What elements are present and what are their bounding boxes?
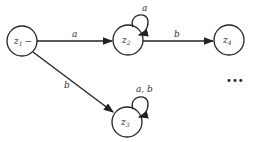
svg-text:z4: z4 [222,35,232,46]
svg-text:z3: z3 [120,117,130,128]
diagram-svg: z1− z2 z4 z3 a a b b a, b ••• [0,0,255,142]
svg-text:z1−: z1− [13,36,32,47]
label-loop-z3: a, b [136,84,153,94]
label-z1-z2: a [72,29,77,39]
ellipsis: ••• [226,75,244,86]
label-loop-z2: a [142,3,147,13]
label-z2-z4: b [174,29,180,39]
label-z1-z3: b [64,80,70,90]
svg-text:z2: z2 [121,35,131,46]
automaton-diagram: z1− z2 z4 z3 a a b b a, b ••• [0,0,255,142]
edge-z1-z3 [33,52,113,112]
